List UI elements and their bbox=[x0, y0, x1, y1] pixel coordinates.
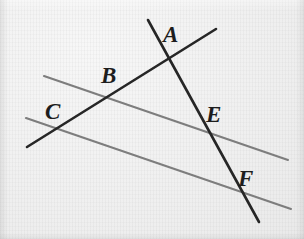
line-group bbox=[26, 20, 291, 222]
point-label-c: C bbox=[45, 100, 60, 123]
point-label-e: E bbox=[206, 103, 221, 126]
point-label-b: B bbox=[101, 64, 116, 87]
lower-gray-line bbox=[26, 118, 291, 209]
dark-steep-line bbox=[148, 20, 259, 222]
upper-gray-line bbox=[44, 76, 288, 160]
point-label-a: A bbox=[163, 23, 178, 46]
point-label-f: F bbox=[238, 167, 253, 190]
geometry-figure: ABCEF bbox=[0, 0, 304, 239]
dark-rising-line bbox=[27, 29, 216, 147]
